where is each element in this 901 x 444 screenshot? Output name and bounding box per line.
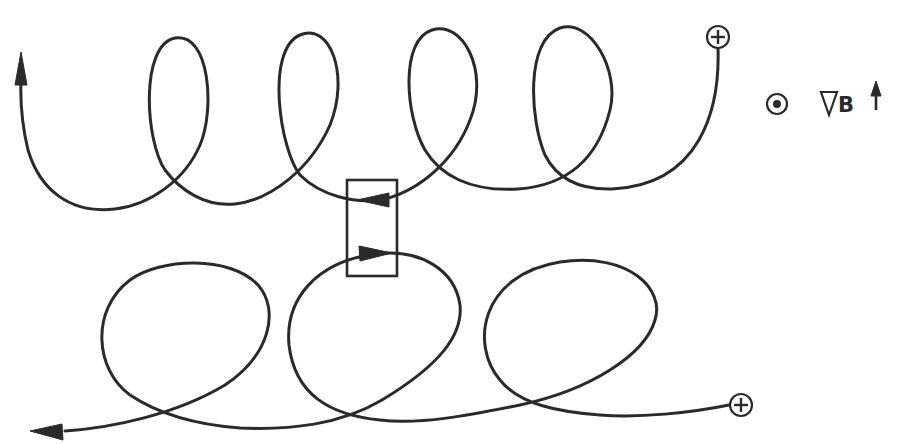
gradient-b-label: B — [821, 92, 854, 117]
upper-end-arrow-icon — [15, 52, 27, 85]
gradient-b-text: B — [838, 93, 854, 117]
lower-end-arrow-icon — [30, 424, 63, 440]
left-velocity-arrow-icon — [357, 193, 389, 207]
upper-positive-charge-icon — [707, 26, 729, 48]
nabla-icon — [821, 92, 837, 115]
upper-trajectory — [21, 27, 718, 210]
lower-trajectory — [65, 253, 729, 431]
drift-diagram: B — [0, 0, 901, 444]
lower-positive-charge-icon — [730, 394, 752, 416]
highlight-box — [347, 180, 397, 276]
right-velocity-arrow-icon — [359, 246, 392, 261]
field-legend: B — [767, 81, 881, 117]
gradient-direction-arrow-icon — [871, 81, 881, 110]
b-field-out-of-page-icon — [767, 94, 787, 114]
